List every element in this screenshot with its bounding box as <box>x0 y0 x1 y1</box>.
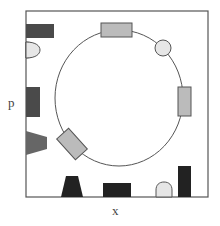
track-circle <box>155 40 171 56</box>
left-half-disc-shape <box>26 42 40 58</box>
bottom-trapezoid <box>61 176 83 197</box>
diagram-canvas: p x <box>0 0 220 226</box>
y-axis-label: p <box>8 95 15 110</box>
left-top-rect <box>26 24 54 38</box>
left-trapezoid <box>26 131 47 155</box>
bottom-rect <box>103 183 131 197</box>
track-top-rect <box>101 23 132 37</box>
left-mid-rect <box>26 87 40 117</box>
bottom-dome <box>156 182 172 197</box>
x-axis-label: x <box>112 203 119 218</box>
bottom-right-tall-rect <box>178 166 191 197</box>
track-tilted-rect <box>57 128 88 160</box>
track-right-rect <box>178 87 191 116</box>
